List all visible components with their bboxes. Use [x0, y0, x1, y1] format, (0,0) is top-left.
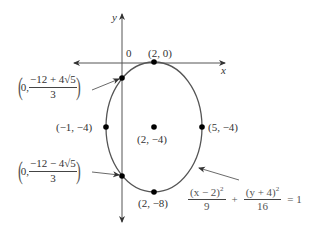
point-upper-intercept: [119, 75, 125, 81]
left-paren: (: [18, 158, 23, 184]
term-x-base: (x − 2): [190, 186, 220, 198]
fraction-numerator: −12 + 4√5: [29, 74, 77, 88]
point-right: [199, 124, 205, 130]
right-paren: ): [76, 158, 81, 184]
term-y-base: (y + 4): [246, 186, 276, 198]
term-x-denominator: 9: [204, 200, 210, 213]
intercept-fraction: −12 + 4√5 3: [29, 74, 77, 100]
label-top-point: (2, 0): [148, 48, 172, 59]
upper-intercept-label: ( 0, −12 + 4√5 3 ): [16, 74, 83, 100]
lower-intercept-label: ( 0, −12 − 4√5 3 ): [16, 158, 83, 184]
term-x-numerator: (x − 2)2: [188, 186, 226, 200]
point-bottom: [151, 189, 157, 195]
lower-intercept-arrow: [92, 172, 119, 175]
right-paren: ): [76, 74, 81, 100]
equation-term-y: (y + 4)2 16: [244, 186, 282, 213]
point-center: [151, 124, 157, 130]
term-x-exponent: 2: [220, 185, 224, 193]
equation-term-x: (x − 2)2 9: [188, 186, 226, 213]
point-left: [103, 124, 109, 130]
equals-one: = 1: [287, 193, 301, 205]
y-axis-label: y: [112, 12, 117, 23]
term-y-numerator: (y + 4)2: [244, 186, 282, 200]
point-lower-intercept: [119, 173, 125, 179]
label-right-point: (5, −4): [208, 122, 238, 133]
left-paren: (: [18, 74, 23, 100]
ellipse-equation: (x − 2)2 9 + (y + 4)2 16 = 1: [188, 186, 308, 213]
term-y-denominator: 16: [257, 200, 268, 213]
label-left-point: (−1, −4): [56, 122, 92, 133]
plus-sign: +: [232, 193, 238, 205]
equation-arrow: [199, 168, 239, 180]
label-bottom-point: (2, −8): [138, 198, 168, 209]
fraction-numerator: −12 − 4√5: [29, 158, 77, 172]
term-y-exponent: 2: [276, 185, 280, 193]
fraction-denominator: 3: [50, 88, 56, 101]
x-axis-label: x: [221, 65, 226, 76]
origin-label: 0: [126, 48, 132, 59]
point-top: [151, 59, 157, 65]
label-center-point: (2, −4): [137, 134, 167, 145]
fraction-denominator: 3: [50, 172, 56, 185]
intercept-fraction: −12 − 4√5 3: [29, 158, 77, 184]
